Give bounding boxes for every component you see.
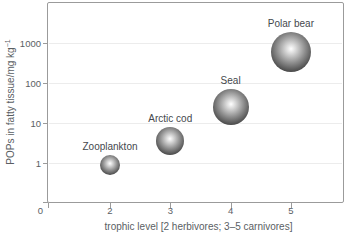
- y-tick: [43, 123, 48, 124]
- gridline: [49, 123, 342, 124]
- x-tick-label: 5: [279, 205, 303, 216]
- bubble-label: Zooplankton: [82, 141, 137, 153]
- bubble: [213, 89, 249, 125]
- x-tick-label: 3: [158, 205, 182, 216]
- gridline: [49, 83, 342, 84]
- bubble-label: Seal: [221, 75, 241, 87]
- x-tick-label: 0: [29, 205, 53, 216]
- x-axis-title: trophic level [2 herbivores; 3–5 carnivo…: [0, 221, 353, 233]
- bubble: [100, 155, 120, 175]
- gridline: [49, 163, 342, 164]
- origin-overhang: [43, 202, 48, 203]
- y-tick: [43, 163, 48, 164]
- y-tick: [43, 83, 48, 84]
- bubble-label: Polar bear: [268, 18, 314, 30]
- bubble-chart-figure: 110100100002345ZooplanktonArctic codSeal…: [0, 0, 353, 242]
- x-tick-label: 4: [219, 205, 243, 216]
- plot-area: [47, 2, 344, 203]
- bubble: [271, 32, 311, 72]
- y-axis-title: POPs in fatty tissue/mg kg−1: [5, 39, 17, 164]
- x-tick-label: 2: [98, 205, 122, 216]
- y-axis-title-exponent: −1: [4, 39, 11, 47]
- y-tick: [43, 43, 48, 44]
- y-axis-title-text: POPs in fatty tissue/mg kg: [5, 47, 16, 164]
- bubble-label: Arctic cod: [148, 113, 192, 125]
